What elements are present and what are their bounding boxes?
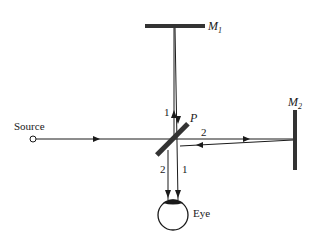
beam-label-1-lower: 1 — [182, 163, 188, 175]
arrow-icon — [93, 136, 100, 142]
beam-label-2-right: 2 — [201, 126, 207, 138]
source-label: Source — [14, 120, 45, 132]
interferometer-diagram: M1 M2 Source P 1 2 2 1 Eye — [0, 0, 318, 233]
mirror-m2-label: M2 — [287, 95, 302, 111]
arrow-icon — [175, 190, 181, 198]
source-point — [30, 136, 36, 142]
arrow-icon — [243, 136, 250, 142]
eye-pupil — [163, 200, 183, 205]
splitter-label: P — [189, 111, 198, 125]
mirror-m2 — [293, 110, 297, 170]
arrow-icon — [175, 116, 181, 124]
beam-label-2-lower: 2 — [160, 163, 166, 175]
arrow-icon — [196, 142, 203, 148]
mirror-m1 — [145, 24, 205, 28]
eye-label: Eye — [193, 207, 210, 219]
beam-label-1-upper: 1 — [164, 106, 170, 118]
mirror-m1-label: M1 — [207, 19, 222, 35]
arrow-icon — [165, 190, 171, 198]
